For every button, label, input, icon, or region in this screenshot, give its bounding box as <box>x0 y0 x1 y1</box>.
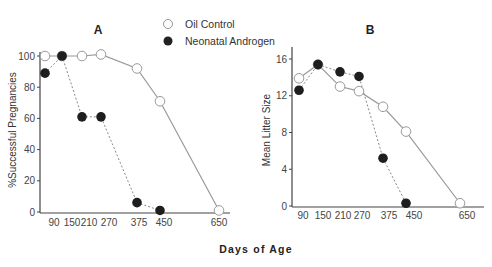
x-tick-label: 90 <box>48 217 60 228</box>
data-point-oil-control <box>354 86 364 96</box>
x-tick-label: 375 <box>131 217 148 228</box>
y-tick-label: 16 <box>276 54 288 65</box>
y-tick-label: 20 <box>24 175 36 186</box>
data-point-oil-control <box>40 51 50 61</box>
data-point-neonatal-androgen <box>335 67 345 77</box>
data-point-neonatal-androgen <box>294 85 304 95</box>
y-tick-label: 40 <box>24 144 36 155</box>
panel-b: B048121690150210270375450650Mean Litter … <box>261 23 484 221</box>
panel-title: B <box>366 23 375 37</box>
y-tick-label: 12 <box>276 90 288 101</box>
x-tick-label: 210 <box>81 217 98 228</box>
data-point-oil-control <box>401 127 411 137</box>
y-tick-label: 4 <box>281 164 287 175</box>
y-tick-label: 0 <box>281 201 287 212</box>
data-point-oil-control <box>96 50 106 60</box>
series-line-oil-control <box>299 65 460 204</box>
data-point-neonatal-androgen <box>40 68 50 78</box>
legend-label-neonatal-androgen: Neonatal Androgen <box>185 35 275 47</box>
data-point-oil-control <box>77 51 87 61</box>
x-tick-label: 375 <box>381 210 398 221</box>
y-tick-label: 8 <box>281 127 287 138</box>
data-point-neonatal-androgen <box>354 72 364 82</box>
data-point-oil-control <box>455 198 465 208</box>
data-point-oil-control <box>155 96 165 106</box>
x-tick-label: 650 <box>211 217 228 228</box>
filled-circle-legend-icon <box>164 37 173 46</box>
data-point-oil-control <box>378 102 388 112</box>
legend-label-oil-control: Oil Control <box>185 18 235 30</box>
data-point-neonatal-androgen <box>132 198 142 208</box>
y-axis-title: Mean Litter Size <box>261 93 272 166</box>
panel-title: A <box>94 23 103 37</box>
data-point-neonatal-androgen <box>77 112 87 122</box>
figure: Oil Control Neonatal Androgen A020406080… <box>0 0 492 267</box>
series-line-oil-control <box>45 54 219 210</box>
y-tick-label: 0 <box>29 207 35 218</box>
y-tick-label: 100 <box>18 51 35 62</box>
data-point-neonatal-androgen <box>155 206 165 216</box>
series-line-neonatal-androgen <box>299 65 406 204</box>
series-line-neonatal-androgen <box>45 56 160 210</box>
x-tick-label: 210 <box>335 210 352 221</box>
y-tick-label: 80 <box>24 82 36 93</box>
data-point-neonatal-androgen <box>378 153 388 163</box>
x-tick-label: 450 <box>406 210 423 221</box>
x-tick-label: 650 <box>459 210 476 221</box>
x-tick-label: 90 <box>297 210 309 221</box>
x-axis-title: Days of Age <box>219 243 293 255</box>
y-tick-label: 60 <box>24 113 36 124</box>
x-tick-label: 150 <box>64 217 81 228</box>
panel-a: A02040608010090150210270375450650%Succes… <box>7 23 230 228</box>
data-point-oil-control <box>132 64 142 74</box>
x-tick-label: 270 <box>354 210 371 221</box>
x-tick-label: 270 <box>101 217 118 228</box>
legend: Oil Control Neonatal Androgen <box>164 18 276 47</box>
data-point-oil-control <box>335 82 345 92</box>
data-point-oil-control <box>294 73 304 83</box>
x-tick-label: 450 <box>156 217 173 228</box>
data-point-neonatal-androgen <box>313 60 323 70</box>
data-point-neonatal-androgen <box>401 198 411 208</box>
open-circle-legend-icon <box>164 20 173 29</box>
data-point-neonatal-androgen <box>96 112 106 122</box>
data-point-oil-control <box>214 206 224 216</box>
x-tick-label: 150 <box>315 210 332 221</box>
y-axis-title: %Successful Pregnancies <box>7 72 18 188</box>
data-point-neonatal-androgen <box>57 51 67 61</box>
